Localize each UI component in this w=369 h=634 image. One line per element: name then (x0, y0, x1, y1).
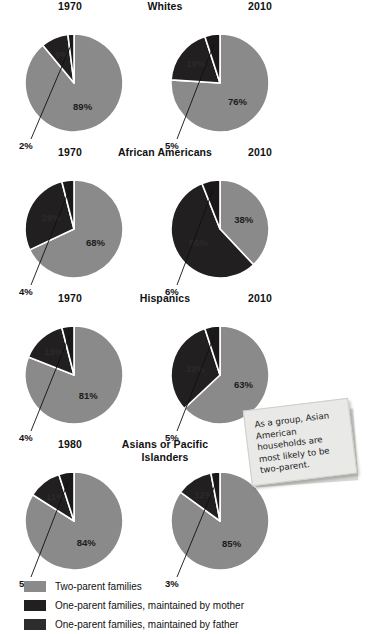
row-header: 1970African Americans2010 (0, 146, 369, 176)
year-label-left: 1970 (38, 292, 102, 305)
slice-label: 81% (79, 390, 99, 401)
year-label-left: 1970 (38, 146, 102, 159)
group-label: Hispanics (110, 292, 220, 305)
chart-row-whites: 1970Whites201089%9%2%76%19%5% (0, 0, 369, 146)
slice-label: 63% (234, 379, 254, 390)
pie-slot-right: 38%56%6% (168, 176, 310, 288)
pie-hispanics-1970: 81%15%4% (22, 322, 164, 434)
pie-slot-left: 68%28%4% (22, 176, 164, 288)
slice-label: 84% (77, 537, 97, 548)
pie-slot-right: 76%19%5% (168, 30, 310, 142)
year-label-left: 1980 (38, 438, 102, 451)
pie-asians-or-pacific-islanders-1980: 84%11%5% (22, 468, 164, 580)
legend-item-two-parent: Two-parent families (24, 578, 344, 595)
row-header: 1970Hispanics2010 (0, 292, 369, 322)
slice-label: 38% (234, 214, 254, 225)
sticky-note: As a group, Asian American households ar… (243, 398, 357, 486)
pie-slot-left: 84%11%5% (22, 468, 164, 580)
legend-swatch (24, 619, 46, 630)
sticky-note-text: As a group, Asian American households ar… (254, 409, 347, 477)
pie-whites-2010: 76%19%5% (168, 30, 310, 142)
group-label: Asians or Pacific Islanders (110, 438, 220, 463)
slice-label: 89% (73, 101, 93, 112)
row-header: 1970Whites2010 (0, 0, 369, 30)
pie-slot-left: 81%15%4% (22, 322, 164, 434)
chart-row-african-americans: 1970African Americans201068%28%4%38%56%6… (0, 146, 369, 292)
pie-slot-left: 89%9%2% (22, 30, 164, 142)
pie-chart-grid: 1970Whites201089%9%2%76%19%5%1970African… (0, 0, 369, 588)
pie-pair: 84%11%5%85%12%3% (0, 468, 369, 580)
legend-label: Two-parent families (55, 581, 142, 592)
slice-label: 68% (86, 237, 106, 248)
pie-african-americans-1970: 68%28%4% (22, 176, 164, 288)
year-label-right: 2010 (228, 146, 292, 159)
slice-label: 19% (186, 58, 206, 69)
year-label-left: 1970 (38, 0, 102, 13)
pie-asians-or-pacific-islanders-2010: 85%12%3% (168, 468, 310, 580)
legend-swatch (24, 581, 46, 592)
legend-item-father: One-parent families, maintained by fathe… (24, 616, 344, 633)
legend-item-mother: One-parent families, maintained by mothe… (24, 597, 344, 614)
pie-whites-1970: 89%9%2% (22, 30, 164, 142)
slice-label: 32% (186, 363, 206, 374)
legend-swatch (24, 600, 46, 611)
legend-label: One-parent families, maintained by mothe… (55, 600, 244, 611)
group-label: Whites (110, 0, 220, 13)
legend: Two-parent familiesOne-parent families, … (24, 578, 344, 634)
pie-pair: 89%9%2%76%19%5% (0, 30, 369, 142)
year-label-right: 2010 (228, 0, 292, 13)
legend-label: One-parent families, maintained by fathe… (55, 619, 238, 630)
pie-african-americans-2010: 38%56%6% (168, 176, 310, 288)
year-label-right: 2010 (228, 292, 292, 305)
slice-label: 85% (222, 538, 242, 549)
group-label: African Americans (110, 146, 220, 159)
pie-pair: 68%28%4%38%56%6% (0, 176, 369, 288)
pie-slot-right: 85%12%3% (168, 468, 310, 580)
slice-label: 76% (228, 96, 248, 107)
chart-sheet: 1970Whites201089%9%2%76%19%5%1970African… (0, 0, 369, 634)
